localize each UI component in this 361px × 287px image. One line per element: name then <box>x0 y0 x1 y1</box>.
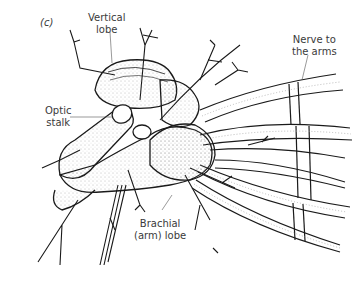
panel-label: (c) <box>40 17 53 28</box>
arm-nerve-cords <box>192 74 352 252</box>
label-nerve-to-arms: Nerve to the arms <box>292 34 337 58</box>
label-brachial-lobe: Brachial (arm) lobe <box>134 218 186 242</box>
label-line: Nerve to <box>292 34 337 46</box>
label-vertical-lobe: Vertical lobe <box>88 12 125 36</box>
label-line: lobe <box>88 24 125 36</box>
label-line: Vertical <box>88 12 125 24</box>
label-line: (arm) lobe <box>134 230 186 242</box>
label-line: stalk <box>45 117 71 129</box>
label-optic-stalk: Optic stalk <box>45 105 71 129</box>
brain-mass <box>54 60 215 210</box>
label-line: Brachial <box>134 218 186 230</box>
label-line: the arms <box>292 46 337 58</box>
label-line: Optic <box>45 105 71 117</box>
